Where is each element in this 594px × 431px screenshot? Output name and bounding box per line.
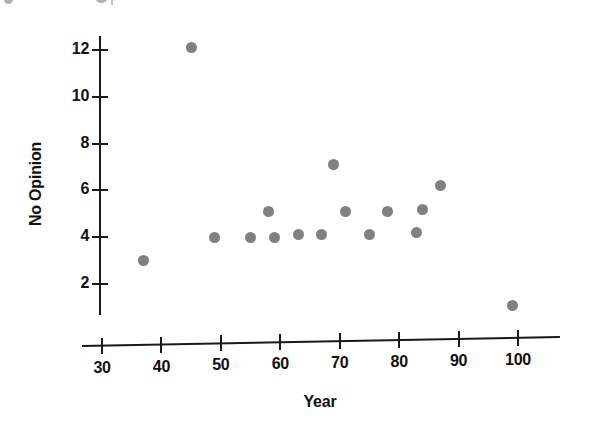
y-axis-line xyxy=(99,36,101,315)
data-point xyxy=(209,232,220,243)
x-axis-tick xyxy=(339,333,341,349)
x-axis-tick-label: 80 xyxy=(369,353,429,371)
x-axis-tick xyxy=(279,334,281,350)
x-axis-tick-label: 50 xyxy=(191,356,251,374)
x-axis-tick-label: 90 xyxy=(429,352,489,370)
x-axis-tick-label: 40 xyxy=(131,358,191,376)
data-point xyxy=(269,232,280,243)
x-axis-tick xyxy=(458,331,460,347)
y-axis-tick-label: 4 xyxy=(49,227,89,245)
y-axis-tick-label: 8 xyxy=(49,134,89,152)
data-point xyxy=(186,42,197,53)
data-point xyxy=(340,206,351,217)
x-axis-tick-label: 70 xyxy=(310,354,370,372)
x-axis-tick xyxy=(220,335,222,351)
data-point xyxy=(293,229,304,240)
data-point xyxy=(364,229,375,240)
x-axis-line xyxy=(82,336,560,347)
data-point xyxy=(316,229,327,240)
x-axis-tick xyxy=(517,330,519,346)
y-axis-tick xyxy=(92,143,108,145)
x-axis-tick-label: 60 xyxy=(250,355,310,373)
y-axis-tick xyxy=(92,236,108,238)
y-axis-tick xyxy=(92,49,108,51)
scatter-plot-figure: 2468101230405060708090100 No Opinion Yea… xyxy=(0,0,594,431)
y-axis-title: No Opinion xyxy=(27,124,45,244)
x-axis-tick-label: 100 xyxy=(488,351,548,369)
data-point xyxy=(435,180,446,191)
data-point xyxy=(411,227,422,238)
data-point xyxy=(382,206,393,217)
y-axis-tick-label: 6 xyxy=(49,180,89,198)
data-point xyxy=(507,300,518,311)
y-axis-tick-label: 10 xyxy=(49,87,89,105)
y-axis-tick-label: 2 xyxy=(49,274,89,292)
y-axis-tick xyxy=(92,189,108,191)
x-axis-tick-label: 30 xyxy=(72,359,132,377)
data-point xyxy=(328,159,339,170)
x-axis-tick xyxy=(160,337,162,353)
data-point xyxy=(263,206,274,217)
y-axis-tick xyxy=(92,283,108,285)
data-point xyxy=(138,255,149,266)
x-axis-title: Year xyxy=(260,393,380,411)
y-axis-tick-label: 12 xyxy=(49,40,89,58)
data-point xyxy=(245,232,256,243)
y-axis-tick xyxy=(92,96,108,98)
x-axis-tick xyxy=(398,332,400,348)
plot-area: 2468101230405060708090100 xyxy=(0,0,594,431)
x-axis-tick xyxy=(101,338,103,354)
data-point xyxy=(417,204,428,215)
